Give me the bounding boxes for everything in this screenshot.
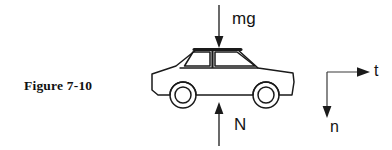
t-axis-arrow-head-right-icon [357,67,370,77]
car-front-wheel-rim [175,87,191,103]
t-axis-label: t [374,63,378,79]
car-front-wheel-tire [170,82,196,108]
n-axis-arrow-head-down-icon [323,106,332,118]
n-axis-label: n [330,119,339,135]
normal-force-label: N [234,116,246,133]
weight-arrow-head-down-icon [215,36,224,48]
car-body-outline [152,50,294,95]
normal-arrow-head-up-icon [215,102,224,114]
coordinate-axes [323,67,370,118]
car-front-window [185,52,211,66]
weight-force-arrow [215,5,224,48]
car-rear-wheel-tire [253,82,279,108]
car-illustration [152,50,294,109]
weight-force-label: mg [232,10,256,27]
car-rear-wheel-rim [258,87,274,103]
figure-canvas: Figure 7-10 [0,0,392,150]
normal-force-arrow [215,102,224,146]
